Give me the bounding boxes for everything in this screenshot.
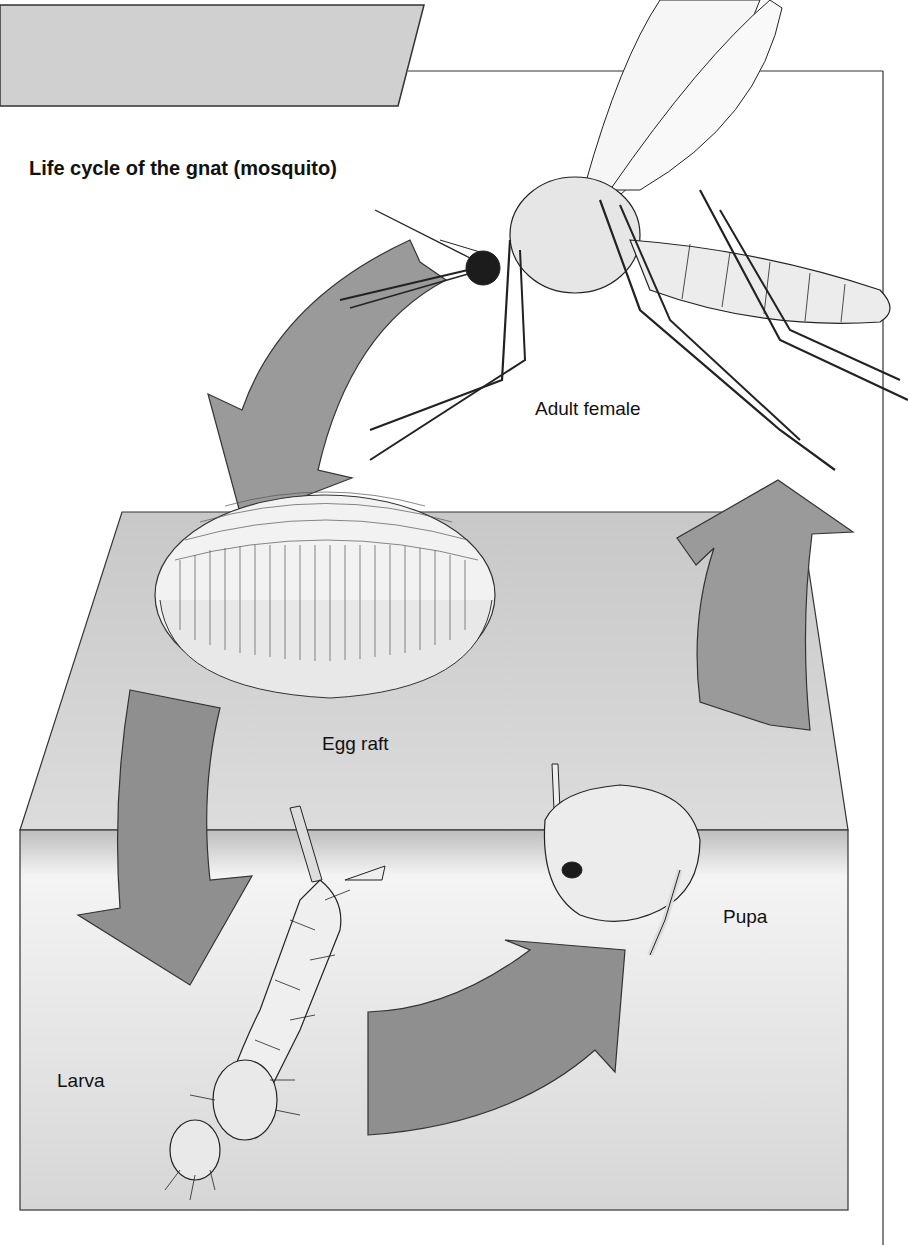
diagram-canvas: [0, 0, 908, 1245]
diagram-title: Life cycle of the gnat (mosquito): [29, 157, 337, 180]
label-adult-female: Adult female: [535, 398, 641, 420]
egg-raft-illustration: [155, 492, 495, 698]
label-pupa: Pupa: [723, 906, 767, 928]
life-cycle-diagram: Life cycle of the gnat (mosquito) Adult …: [0, 0, 908, 1245]
arrow-adult-to-egg: [208, 240, 446, 520]
label-larva: Larva: [57, 1070, 105, 1092]
label-egg-raft: Egg raft: [322, 733, 389, 755]
header-band: [0, 5, 424, 106]
